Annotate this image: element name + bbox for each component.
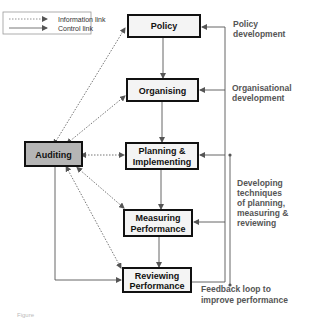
svg-text:Planning &: Planning & bbox=[139, 146, 187, 156]
annotation-developing-techniques: Developing techniques of planning, measu… bbox=[237, 178, 289, 228]
svg-text:Implementing: Implementing bbox=[133, 157, 192, 167]
box-measuring-performance: Measuring Performance bbox=[124, 210, 192, 236]
legend-control-link: Control link bbox=[58, 25, 94, 32]
box-auditing: Auditing bbox=[25, 142, 82, 166]
svg-text:Feedback loop to: Feedback loop to bbox=[201, 284, 271, 294]
svg-text:techniques: techniques bbox=[237, 188, 282, 198]
svg-text:Performance: Performance bbox=[129, 281, 184, 291]
legend-information-link: Information link bbox=[58, 16, 106, 23]
svg-text:improve performance: improve performance bbox=[201, 295, 288, 305]
annotation-policy-development: Policy development bbox=[233, 19, 286, 39]
svg-text:measuring &: measuring & bbox=[237, 208, 289, 218]
svg-text:of planning,: of planning, bbox=[237, 198, 285, 208]
box-policy: Policy bbox=[128, 15, 200, 37]
svg-text:Organising: Organising bbox=[139, 86, 187, 96]
loop-dot-top bbox=[228, 153, 231, 156]
svg-text:reviewing: reviewing bbox=[237, 218, 276, 228]
box-reviewing-performance: Reviewing Performance bbox=[123, 268, 191, 292]
svg-text:Measuring: Measuring bbox=[135, 213, 180, 223]
svg-text:Performance: Performance bbox=[130, 224, 185, 234]
figure-caption: Figure bbox=[17, 312, 35, 318]
svg-text:Policy: Policy bbox=[233, 19, 258, 29]
annotation-feedback-loop: Feedback loop to improve performance bbox=[201, 284, 288, 305]
svg-text:development: development bbox=[232, 93, 285, 103]
box-organising: Organising bbox=[127, 79, 198, 101]
legend: Information link Control link bbox=[3, 12, 106, 34]
annotation-organisational-development: Organisational development bbox=[232, 83, 292, 103]
svg-text:Auditing: Auditing bbox=[35, 150, 72, 160]
svg-text:Policy: Policy bbox=[151, 21, 178, 31]
svg-text:Organisational: Organisational bbox=[232, 83, 292, 93]
hsg65-diagram: Information link Control link Policy Org… bbox=[0, 0, 316, 320]
svg-text:Reviewing: Reviewing bbox=[135, 271, 180, 281]
svg-text:Developing: Developing bbox=[237, 178, 283, 188]
box-planning-implementing: Planning & Implementing bbox=[126, 143, 198, 169]
svg-text:development: development bbox=[233, 29, 286, 39]
